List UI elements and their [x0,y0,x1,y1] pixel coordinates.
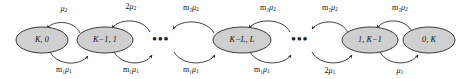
transition-arrow-bottom-b5 [380,52,418,63]
top-rate-labels: μ22μ2m₂μ2m₂μ2m₂μ2m₂μ2 [60,2,409,14]
ellipsis-gap2: ••• [291,31,308,46]
transition-arrow-top-t2 [173,22,214,33]
state-label-n2: K−L, L [229,35,255,44]
state-node-n2[interactable]: K−L, L [213,27,271,53]
transition-arrow-bottom-b2 [174,52,215,63]
transition-arrow-bottom-b1 [114,52,152,63]
state-label-n0: K, 0 [34,35,49,44]
rate-label-bottom-b4: 2μ1 [325,66,336,76]
ellipsis-gap1: ••• [152,31,169,46]
state-node-n1[interactable]: K−1, 1 [77,27,133,53]
rate-label-top-t4: m₂μ2 [322,3,338,13]
rate-label-top-t3: m₂μ2 [260,3,276,13]
diagram-canvas: K, 0K−1, 1K−L, L1, K−10, K •••••• μ22μ2m… [0,0,466,79]
rate-label-bottom-b0: m₁μ1 [56,65,72,75]
transition-arrow-bottom-b0 [50,52,88,63]
transition-arrow-bottom-b3 [250,52,291,63]
state-label-n4: 0, K [422,35,436,44]
state-node-n4[interactable]: 0, K [403,27,455,53]
rate-label-bottom-b2: m₁μ1 [183,65,199,75]
rate-label-top-t1: 2μ2 [126,2,137,12]
rate-label-bottom-b1: m₁μ1 [123,65,139,75]
rate-label-bottom-b5: μ1 [396,66,404,76]
state-node-n0[interactable]: K, 0 [16,27,68,53]
transition-arrow-top-t4 [312,22,348,33]
rate-label-top-t0: μ2 [60,4,68,14]
rate-label-top-t5: m₂μ2 [392,3,408,13]
state-label-n1: K−1, 1 [92,35,117,44]
bottom-rate-labels: m₁μ1m₁μ1m₁μ1m₁μ12μ1μ1 [56,65,404,76]
rate-label-bottom-b3: m₁μ1 [254,65,270,75]
bottom-transition-edges [50,52,418,63]
state-label-n3: 1, K−1 [358,35,382,44]
state-nodes: K, 0K−1, 1K−L, L1, K−10, K [16,27,455,53]
state-node-n3[interactable]: 1, K−1 [342,27,398,53]
rate-label-top-t2: m₂μ2 [183,3,199,13]
state-transition-diagram: K, 0K−1, 1K−L, L1, K−10, K •••••• μ22μ2m… [0,0,466,79]
transition-arrow-bottom-b4 [312,52,352,63]
